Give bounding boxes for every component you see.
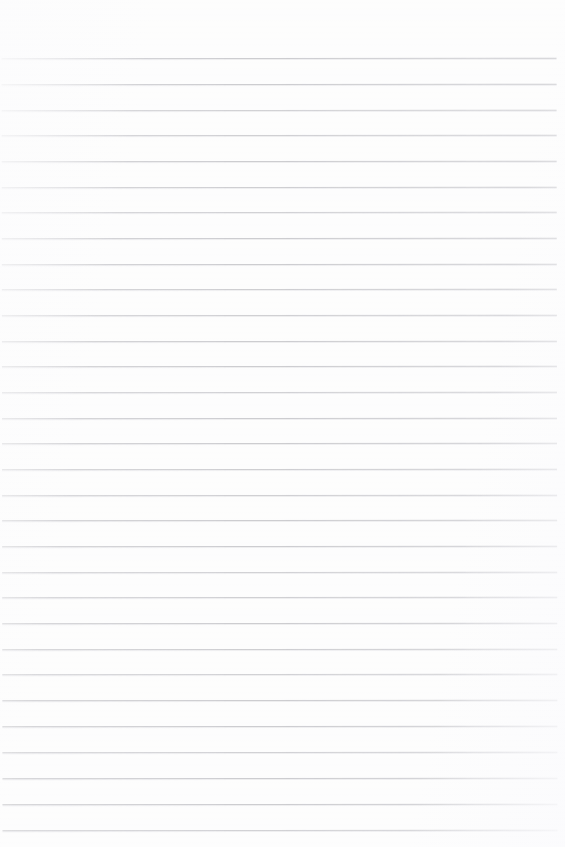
rule-line — [2, 84, 557, 86]
rule-line — [2, 187, 557, 189]
rule-line — [2, 443, 557, 445]
paper-sheet — [0, 0, 565, 847]
ruled-lines-layer — [0, 0, 565, 847]
rule-line — [2, 392, 557, 394]
rule-line — [2, 341, 557, 343]
rule-line — [2, 804, 557, 806]
rule-line — [2, 546, 557, 548]
rule-line — [2, 289, 557, 291]
rule-line — [2, 469, 557, 471]
rule-line — [2, 752, 557, 754]
rule-line — [2, 700, 557, 702]
rule-line — [2, 366, 557, 368]
rule-line — [2, 649, 557, 651]
rule-line — [2, 495, 557, 497]
rule-line — [2, 135, 557, 137]
rule-line — [2, 572, 557, 574]
rule-line — [2, 830, 557, 832]
rule-line — [2, 264, 557, 266]
rule-line — [2, 110, 557, 112]
rule-line — [2, 315, 557, 317]
rule-line — [2, 161, 557, 163]
rule-line — [2, 418, 557, 420]
rule-line — [2, 726, 557, 728]
rule-line — [2, 778, 557, 780]
rule-line — [2, 520, 557, 522]
rule-line — [2, 597, 557, 599]
rule-line — [2, 623, 557, 625]
rule-line — [2, 238, 557, 240]
rule-line — [2, 212, 557, 214]
rule-line — [2, 58, 557, 60]
rule-line — [2, 674, 557, 676]
